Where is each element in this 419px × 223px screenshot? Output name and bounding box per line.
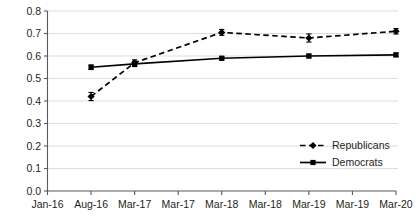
data-point-marker — [219, 56, 224, 61]
data-point-marker — [305, 34, 312, 41]
data-point-marker — [88, 65, 93, 70]
y-axis-tick-label: 0.2 — [26, 140, 41, 152]
y-axis-tick-label: 0.1 — [26, 162, 41, 174]
y-axis-tick-label: 0.5 — [26, 72, 41, 84]
y-axis-tick-label: 0.0 — [26, 185, 41, 197]
x-axis-tick-label: Mar-18 — [205, 198, 238, 210]
x-axis-tick-label: Mar-17 — [118, 198, 151, 210]
y-axis-tick-label: 0.7 — [26, 27, 41, 39]
chart-legend: RepublicansDemocrats — [300, 139, 390, 168]
chart-container: 0.00.10.20.30.40.50.60.70.8 Jan-16Aug-16… — [0, 0, 419, 223]
data-point-marker — [306, 53, 311, 58]
legend-label: Republicans — [332, 139, 390, 151]
x-axis-tick-label: Mar-19 — [336, 198, 369, 210]
data-point-marker — [132, 61, 137, 66]
x-axis-tick-label: Mar-19 — [292, 198, 325, 210]
x-axis-tick-label: Mar-17 — [162, 198, 195, 210]
data-point-marker — [393, 52, 398, 57]
y-axis-tick-label: 0.4 — [26, 95, 41, 107]
x-axis — [48, 191, 397, 195]
y-axis-tick-label: 0.6 — [26, 50, 41, 62]
y-axis-tick-label: 0.8 — [26, 5, 41, 17]
y-axis-tick-label: 0.3 — [26, 117, 41, 129]
y-axis-tick-labels: 0.00.10.20.30.40.50.60.70.8 — [26, 5, 41, 197]
x-axis-tick-label: Mar-18 — [249, 198, 282, 210]
legend-marker — [310, 160, 315, 165]
y-axis — [44, 11, 48, 191]
legend-label: Democrats — [332, 156, 383, 168]
x-axis-tick-label: Jan-16 — [31, 198, 63, 210]
x-axis-tick-label: Aug-16 — [74, 198, 108, 210]
legend-marker — [309, 142, 316, 149]
series-democrats — [88, 52, 398, 70]
x-axis-tick-labels: Jan-16Aug-16Mar-17Mar-17Mar-18Mar-18Mar-… — [31, 198, 412, 210]
line-chart: 0.00.10.20.30.40.50.60.70.8 Jan-16Aug-16… — [0, 0, 419, 223]
x-axis-tick-label: Mar-20 — [379, 198, 412, 210]
